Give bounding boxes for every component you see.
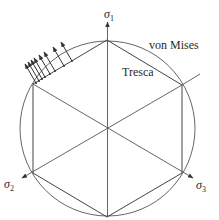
sigma2-label: σ2 (4, 177, 14, 193)
yield-surface-diagram: σ1 σ2 σ3 von Mises Tresca (0, 0, 219, 220)
sigma3-axis-line (33, 84, 193, 178)
tresca-label: Tresca (122, 65, 154, 79)
normal-flow-arrows (25, 42, 72, 83)
sigma2-axis-line (22, 85, 182, 178)
von-mises-label: von Mises (149, 38, 199, 52)
tresca-leader-line (182, 74, 200, 85)
sigma3-label: σ3 (196, 178, 206, 194)
sigma1-label: σ1 (104, 7, 114, 23)
